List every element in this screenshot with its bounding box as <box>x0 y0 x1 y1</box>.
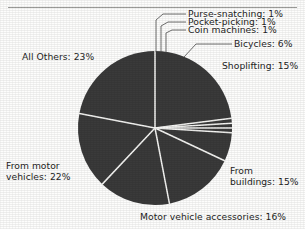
label-from-motor-vehicles-line2: vehicles: 22% <box>6 172 70 183</box>
label-coin-machines: Coin machines: 1% <box>188 25 277 36</box>
label-from-buildings-line2: buildings: 15% <box>230 177 299 188</box>
leader-line-purse-snatching <box>156 14 186 52</box>
label-bicycles: Bicycles: 6% <box>234 39 292 50</box>
label-from-buildings-line1: From <box>230 166 253 177</box>
label-from-motor-vehicles-line1: From motor <box>6 161 60 172</box>
leader-line-coin-machines <box>166 30 186 53</box>
label-motor-vehicle-accessories: Motor vehicle accessories: 16% <box>140 212 286 223</box>
pie-chart-figure: Purse-snatching: 1% Pocket-picking: 1% C… <box>0 0 305 229</box>
label-shoplifting: Shoplifting: 15% <box>222 61 298 72</box>
leader-line-pocket-picking <box>161 22 186 52</box>
slice-purse-snatching <box>155 51 231 128</box>
leader-line-bicycles <box>184 44 232 57</box>
label-all-others: All Others: 23% <box>22 52 94 63</box>
